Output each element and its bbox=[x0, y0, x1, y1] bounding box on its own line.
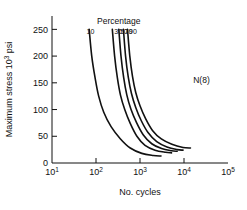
y-tick-label: 200 bbox=[33, 51, 48, 61]
series-label-90: 90 bbox=[129, 28, 137, 35]
x-axis-title: No. cycles bbox=[119, 187, 161, 197]
x-tick-label: 104 bbox=[177, 166, 191, 178]
x-tick-label: 101 bbox=[45, 166, 59, 178]
series-label-10: 10 bbox=[87, 28, 95, 35]
legend-title: Percentage bbox=[97, 16, 141, 26]
chart-annotation: N(8) bbox=[193, 75, 210, 85]
y-tick-label: 250 bbox=[33, 25, 48, 35]
curve-30 bbox=[112, 29, 171, 152]
x-tick-label: 102 bbox=[89, 166, 103, 178]
y-axis-tick-labels: 050100150200250 bbox=[33, 25, 48, 169]
data-curves bbox=[89, 29, 190, 156]
x-tick-label: 103 bbox=[133, 166, 147, 178]
y-tick-label: 150 bbox=[33, 78, 48, 88]
figure-container: 050100150200250 101102103104105 10305070… bbox=[0, 0, 247, 210]
y-axis-title: Maximum stress 103 psi bbox=[3, 42, 14, 138]
y-tick-label: 50 bbox=[38, 131, 48, 141]
y-axis-title-unit: psi bbox=[4, 42, 14, 56]
y-tick-label: 100 bbox=[33, 105, 48, 115]
x-tick-label: 105 bbox=[221, 166, 235, 178]
x-axis-ticks bbox=[96, 158, 184, 163]
curve-90 bbox=[128, 29, 191, 148]
x-axis-tick-labels: 101102103104105 bbox=[45, 166, 235, 178]
y-axis-ticks bbox=[52, 29, 57, 136]
svg-text:Maximum stress 103 psi: Maximum stress 103 psi bbox=[3, 42, 14, 138]
chart-svg: 050100150200250 101102103104105 10305070… bbox=[0, 0, 247, 210]
y-axis-title-main: Maximum stress 10 bbox=[4, 59, 14, 137]
